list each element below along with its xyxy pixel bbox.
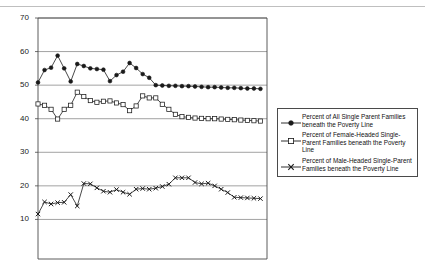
y-tick-label-40: 40 xyxy=(9,115,29,123)
legend-item-all[interactable]: Percent of All Single Parent Families be… xyxy=(280,113,414,128)
y-tick-label-70: 70 xyxy=(9,14,29,22)
legend-item-female[interactable]: Percent of Female-Headed Single-Parent F… xyxy=(280,131,414,154)
figure: 10203040506070 Percent of All Single Par… xyxy=(0,0,425,263)
x-marker-icon xyxy=(280,158,302,168)
filled-diamond-icon xyxy=(280,114,302,124)
chart-legend: Percent of All Single Parent Families be… xyxy=(277,108,418,177)
y-tick-label-30: 30 xyxy=(9,148,29,156)
cut-off-header-text xyxy=(18,0,318,5)
legend-item-male[interactable]: Percent of Male-Headed Single-Parent Fam… xyxy=(280,157,414,172)
plot-frame xyxy=(38,18,267,259)
open-square-icon xyxy=(280,132,302,142)
legend-label-female: Percent of Female-Headed Single-Parent F… xyxy=(302,131,414,154)
legend-label-all: Percent of All Single Parent Families be… xyxy=(302,113,414,128)
y-tick-label-50: 50 xyxy=(9,81,29,89)
y-tick-label-60: 60 xyxy=(9,48,29,56)
header-divider xyxy=(0,6,425,7)
data-series-group xyxy=(36,54,263,217)
y-tick-label-10: 10 xyxy=(9,215,29,223)
y-tick-label-20: 20 xyxy=(9,182,29,190)
legend-label-male: Percent of Male-Headed Single-Parent Fam… xyxy=(302,157,414,172)
